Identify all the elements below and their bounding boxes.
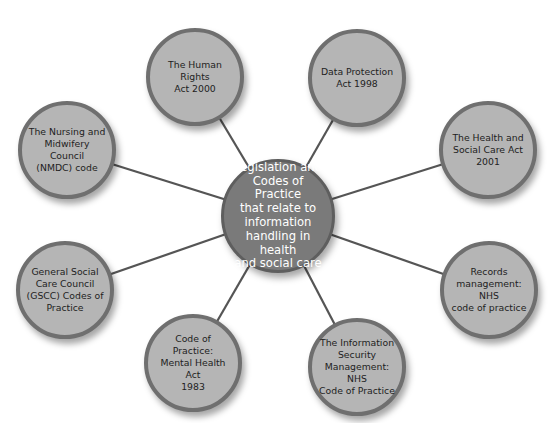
node-information-security: The Information Security Management: NHS… <box>308 318 406 416</box>
node-label: The Health and Social Care Act 2001 <box>446 132 529 168</box>
node-human-rights: The Human Rights Act 2000 <box>146 28 244 126</box>
node-label: General Social Care Council (GSCC) Codes… <box>21 266 110 314</box>
node-health-social-care-act: The Health and Social Care Act 2001 <box>439 101 537 199</box>
node-label: Data Protection Act 1998 <box>315 66 399 90</box>
node-label: The Human Rights Act 2000 <box>150 59 240 95</box>
legislation-diagram: The Human Rights Act 2000Data Protection… <box>0 0 554 423</box>
node-data-protection: Data Protection Act 1998 <box>308 29 406 127</box>
node-gscc: General Social Care Council (GSCC) Codes… <box>16 241 114 339</box>
center-label: Legislation and Codes of Practice that r… <box>224 161 332 271</box>
node-label: The Nursing and Midwifery Council (NMDC)… <box>22 126 112 174</box>
node-nmdc: The Nursing and Midwifery Council (NMDC)… <box>18 101 116 199</box>
node-label: Records management: NHS code of practice <box>444 266 534 314</box>
node-records-management: Records management: NHS code of practice <box>440 241 538 339</box>
node-label: Code of Practice: Mental Health Act 1983 <box>148 333 238 393</box>
node-mental-health: Code of Practice: Mental Health Act 1983 <box>144 314 242 412</box>
node-label: The Information Security Management: NHS… <box>312 337 402 397</box>
center-node: Legislation and Codes of Practice that r… <box>221 159 335 273</box>
